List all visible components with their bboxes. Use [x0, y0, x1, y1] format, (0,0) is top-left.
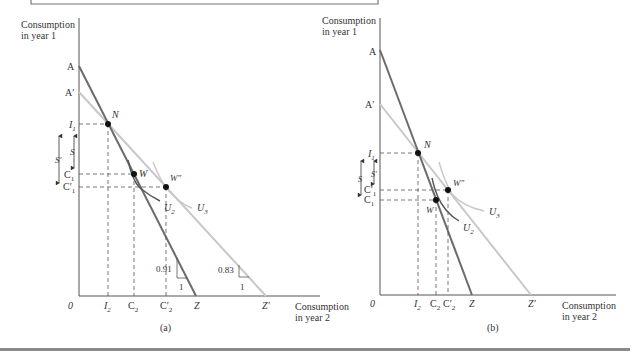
label-c2-prime: C′2	[443, 298, 456, 312]
label-c2: C2	[128, 300, 139, 314]
point-w-double-prime	[445, 187, 451, 193]
x-axis-label-line1: Consumption	[295, 301, 349, 312]
slope-run-1a: 1	[179, 282, 184, 292]
panel-b: Consumption in year 1 Consumption in yea…	[322, 15, 616, 334]
label-z: Z	[469, 298, 475, 309]
label-i2: I2	[103, 300, 111, 314]
label-i2: I2	[413, 298, 421, 312]
point-n	[415, 150, 421, 156]
label-s-prime: S′	[371, 170, 377, 179]
label-i1: I1	[367, 148, 375, 162]
label-c2-prime: C′2	[160, 300, 173, 314]
panel-caption-a: (a)	[160, 322, 171, 334]
y-axis-label-line1: Consumption	[322, 15, 376, 26]
label-a: A	[67, 61, 75, 72]
label-a-prime: A′	[365, 99, 374, 110]
label-u2: U2	[164, 202, 175, 216]
label-u3: U3	[489, 206, 500, 220]
label-w-double-prime: W″	[170, 173, 181, 183]
x-axis-label-line2: in year 2	[562, 311, 597, 322]
label-i1: I1	[68, 119, 76, 133]
slope-rise-0.91: 0.91	[156, 264, 172, 274]
intertemporal-choice-figure: Consumption in year 1 Consumption in yea…	[0, 0, 638, 353]
panel-a: Consumption in year 1 Consumption in yea…	[21, 18, 349, 334]
slope-rise-0.83: 0.83	[218, 265, 234, 275]
label-n: N	[423, 139, 432, 150]
caption-box-border	[31, 0, 378, 4]
label-s-prime: S′	[55, 155, 63, 165]
x-axis-label-line1: Consumption	[562, 300, 616, 311]
label-u3: U3	[197, 202, 208, 216]
label-n: N	[111, 109, 120, 120]
point-w	[433, 197, 439, 203]
label-origin: 0	[68, 300, 73, 311]
label-z-prime: Z′	[528, 298, 537, 309]
label-a: A	[369, 46, 377, 57]
label-origin: 0	[370, 298, 375, 309]
slope-run-1b: 1	[240, 282, 245, 292]
budget-line-before-tax	[380, 50, 472, 295]
point-w-double-prime	[163, 184, 169, 190]
panel-caption-b: (b)	[487, 322, 499, 334]
label-s: S	[358, 175, 362, 184]
bottom-rule	[0, 348, 630, 351]
label-w: W	[426, 205, 435, 215]
label-z-prime: Z′	[262, 300, 271, 311]
label-z: Z	[194, 300, 200, 311]
y-axis-label-line2: in year 1	[21, 30, 56, 41]
label-c1-prime: C′1	[63, 181, 76, 195]
y-axis-label-line2: in year 1	[322, 26, 357, 37]
x-axis-label-line2: in year 2	[295, 312, 330, 323]
point-n	[105, 121, 111, 127]
y-axis-label-line1: Consumption	[21, 19, 75, 30]
label-a-prime: A′	[65, 87, 74, 98]
label-c2: C2	[430, 298, 441, 312]
label-s: S	[70, 147, 75, 157]
label-u2: U2	[463, 222, 474, 236]
label-w-double-prime: W″	[453, 178, 464, 188]
dashed-guides	[380, 153, 448, 295]
budget-line-after-tax	[380, 104, 531, 295]
point-w	[131, 171, 137, 177]
label-w: W	[139, 168, 149, 179]
